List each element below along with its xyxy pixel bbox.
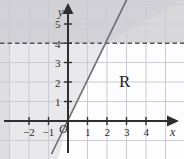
graph-figure: y x O 1 2 3 4 5 −2 −1 1 2 3 4 R [0, 0, 184, 159]
x-tick-label-4: 4 [144, 127, 150, 138]
y-tick-label-1: 1 [55, 97, 61, 108]
y-tick-label-3: 3 [55, 58, 61, 69]
region-label-r: R [119, 73, 130, 90]
x-tick-label-1: 1 [85, 127, 91, 138]
shaded-region-above-y4 [0, 0, 184, 43]
y-tick-label-5: 5 [55, 19, 61, 30]
x-tick-label-minus2: −2 [23, 127, 35, 138]
x-tick-label-2: 2 [105, 127, 111, 138]
origin-label: O [59, 123, 68, 135]
y-axis-label: y [58, 6, 63, 18]
x-axis-label: x [170, 126, 175, 138]
x-tick-label-minus1: −1 [43, 127, 55, 138]
x-tick-label-3: 3 [124, 127, 130, 138]
y-tick-label-4: 4 [55, 39, 61, 50]
y-tick-label-2: 2 [55, 78, 61, 89]
